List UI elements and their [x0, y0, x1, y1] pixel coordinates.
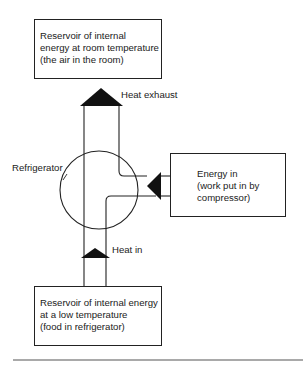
heat-exhaust-label: Heat exhaust — [121, 89, 178, 100]
cold-reservoir-line-1: Reservoir of internal energy — [40, 297, 158, 309]
energy-input-line-1: Energy in — [197, 168, 259, 180]
heat-in-label: Heat in — [112, 244, 142, 255]
intake-pipe-right-wall — [106, 196, 156, 286]
energy-input-text: Energy in (work put in by compressor) — [197, 168, 259, 205]
exhaust-pipe-right-wall — [119, 106, 147, 176]
heat-exhaust-arrow-icon — [80, 88, 123, 106]
energy-input-line-3: compressor) — [197, 192, 259, 204]
hot-reservoir-line-1: Reservoir of internal — [40, 30, 159, 42]
cold-reservoir-text: Reservoir of internal energy at a low te… — [40, 297, 158, 334]
refrigerator-label: Refrigerator — [12, 162, 63, 173]
energy-input-line-2: (work put in by — [197, 180, 259, 192]
cold-reservoir-line-2: at a low temperature — [40, 309, 158, 321]
cold-reservoir-line-3: (food in refrigerator) — [40, 321, 158, 333]
hot-reservoir-line-2: energy at room temperature — [40, 42, 159, 54]
hot-reservoir-text: Reservoir of internal energy at room tem… — [40, 30, 159, 67]
refrigerator-circle — [60, 151, 138, 229]
hot-reservoir-line-3: (the air in the room) — [40, 54, 159, 66]
